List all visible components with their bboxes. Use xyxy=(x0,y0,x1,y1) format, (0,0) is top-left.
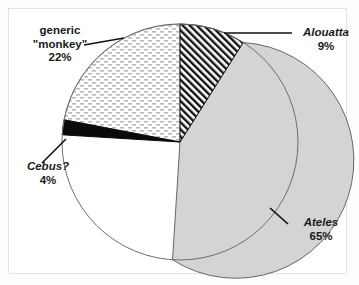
slice-label-generic-monkey-line1: generic xyxy=(14,24,106,38)
slice-label-cebus: Cebus? 4% xyxy=(10,160,86,187)
figure-container: generic "monkey" 22% Alouatta 9% Cebus? … xyxy=(0,0,359,285)
slice-label-alouatta: Alouatta 9% xyxy=(296,26,356,53)
slice-label-generic-monkey-line2: "monkey" xyxy=(14,38,106,52)
slice-label-generic-monkey: generic "monkey" 22% xyxy=(14,24,106,65)
slice-value-alouatta: 9% xyxy=(296,40,356,54)
slice-value-generic-monkey: 22% xyxy=(14,51,106,65)
slice-label-ateles: Ateles 65% xyxy=(288,216,354,243)
slice-label-cebus-name: Cebus? xyxy=(10,160,86,174)
slice-value-cebus: 4% xyxy=(10,174,86,188)
slice-label-alouatta-name: Alouatta xyxy=(296,26,356,40)
slice-value-ateles: 65% xyxy=(288,230,354,244)
slice-label-ateles-name: Ateles xyxy=(288,216,354,230)
